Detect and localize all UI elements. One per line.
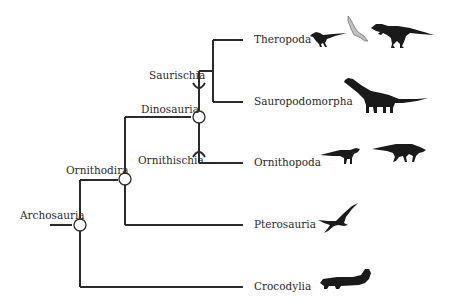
taxon-label-sauropodomorpha: Sauropodomorpha [254, 95, 353, 107]
hadrosaur-icon [372, 144, 426, 162]
silhouettes [310, 16, 434, 289]
taxon-label-theropoda: Theropoda [254, 33, 311, 45]
phylogeny-diagram: Saurischia Dinosauria Ornithischia Ornit… [0, 0, 455, 306]
tyrannosaur-icon [371, 24, 434, 48]
taxon-label-pterosauria: Pterosauria [254, 218, 316, 230]
clade-label-dinosauria: Dinosauria [141, 103, 199, 115]
clade-label-ornithodira: Ornithodira [66, 164, 128, 176]
clade-label-saurischia: Saurischia [149, 69, 205, 81]
clade-label-ornithischia: Ornithischia [138, 154, 204, 166]
crocodile-icon [320, 269, 371, 289]
bird-icon [348, 16, 368, 41]
sauropod-icon [344, 78, 428, 113]
small-ornithopod-icon [320, 148, 360, 164]
small-theropod-icon [310, 32, 347, 47]
taxon-label-ornithopoda: Ornithopoda [254, 156, 321, 168]
tree-lines [0, 0, 455, 306]
taxon-label-crocodylia: Crocodylia [254, 280, 311, 292]
pterosaur-icon [318, 203, 358, 233]
clade-label-archosauria: Archosauria [20, 209, 85, 221]
